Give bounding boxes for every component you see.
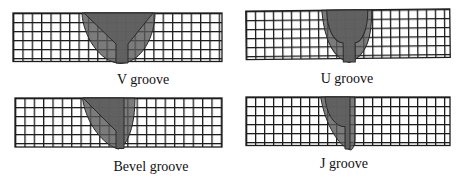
j-groove-panel xyxy=(246,97,450,150)
bevel-groove-panel xyxy=(15,98,222,149)
u-groove-label: U groove xyxy=(287,71,407,87)
v-groove-label: V groove xyxy=(83,72,203,88)
j-groove-label: J groove xyxy=(284,156,404,172)
u-groove-panel xyxy=(246,9,451,64)
bevel-groove-label: Bevel groove xyxy=(91,159,211,175)
v-groove-panel xyxy=(13,13,222,64)
